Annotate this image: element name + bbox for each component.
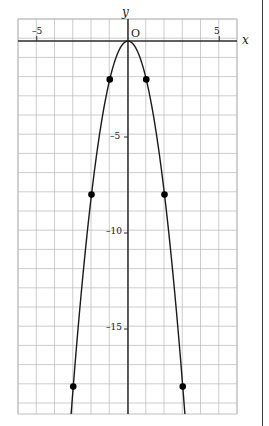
x-tick-label-5: 5	[214, 27, 220, 36]
y-tick-label-neg10: –10	[106, 227, 122, 236]
y-axis-label: y	[122, 6, 129, 18]
figure-page: y x O –5 5 –5 –10 –15	[0, 0, 269, 426]
y-tick-label-neg5: –5	[110, 132, 120, 141]
origin-label: O	[131, 28, 140, 39]
parabola-figure	[0, 0, 269, 426]
page-edge-line	[262, 0, 263, 426]
data-point	[179, 383, 186, 390]
data-point	[70, 383, 77, 390]
data-point	[106, 76, 113, 83]
data-point	[88, 191, 95, 198]
data-point	[143, 76, 150, 83]
y-tick-label-neg15: –15	[106, 323, 122, 332]
x-tick-label-neg5: –5	[32, 27, 42, 36]
x-axis-label: x	[242, 34, 249, 46]
data-point	[161, 191, 168, 198]
